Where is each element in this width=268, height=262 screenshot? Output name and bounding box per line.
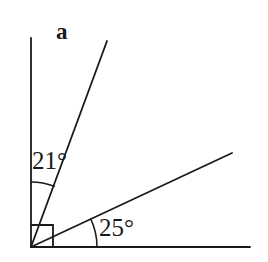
angle-arc-25: [91, 219, 97, 247]
angle-label-25: 25°: [99, 215, 134, 240]
angle-arc-21: [31, 182, 54, 186]
geometry-diagram-canvas: [0, 0, 268, 262]
geometry-figure: a 21° 25°: [0, 0, 268, 262]
angle-label-21: 21°: [32, 148, 67, 173]
figure-label-a: a: [56, 20, 68, 43]
